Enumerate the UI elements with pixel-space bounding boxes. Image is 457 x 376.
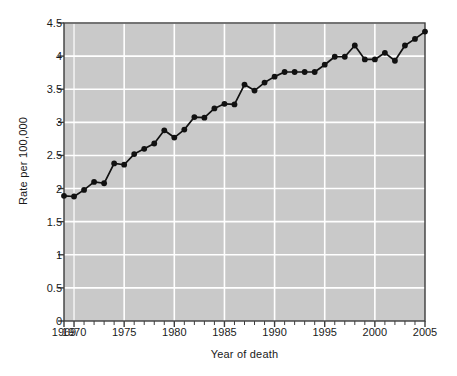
x-axis-tick-label: 1980 [162, 326, 186, 338]
chart-figure: Rate per 100,000 00.511.522.533.544.5 19… [0, 0, 457, 376]
x-axis-tick-label: 2000 [363, 326, 387, 338]
x-axis-tick-label: 1985 [212, 326, 236, 338]
x-axis-title: Year of death [64, 348, 425, 360]
x-axis-tick-label: 1970 [62, 326, 86, 338]
x-axis-tick-label: 1990 [262, 326, 286, 338]
x-axis-tick-label: 2005 [413, 326, 437, 338]
x-axis-tick-label: 1975 [112, 326, 136, 338]
x-axis-tick-labels: 196919701975198019851990199520002005 [0, 0, 457, 376]
x-axis-tick-label: 1995 [312, 326, 336, 338]
